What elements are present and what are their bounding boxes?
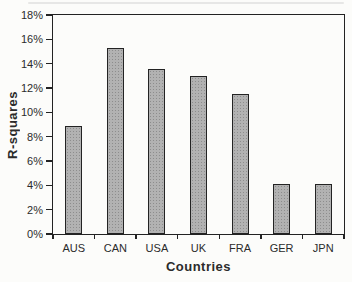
x-category-label: USA [136,242,178,255]
x-tick [52,234,54,239]
y-tick [46,160,52,162]
y-tick-label: 14% [3,58,43,70]
y-tick [46,136,52,138]
y-tick [46,39,52,41]
bar-chart-figure: R-squares 0%2%4%6%8%10%12%14%16%18%AUSCA… [0,0,352,282]
bar-USA [148,69,165,234]
x-category-label: UK [178,242,220,255]
x-axis-title: Countries [52,259,345,274]
y-tick-label: 4% [3,179,43,191]
x-category-label: JPN [302,242,344,255]
x-category-label: FRA [219,242,261,255]
x-tick [135,234,137,239]
x-category-label: CAN [95,242,137,255]
y-tick [46,233,52,235]
y-tick [46,63,52,65]
x-category-label: GER [261,242,303,255]
plot-area: 0%2%4%6%8%10%12%14%16%18%AUSCANUSAUKFRAG… [52,14,345,235]
y-axis-title: R-squares [5,14,22,235]
x-tick [302,234,304,239]
y-tick-label: 16% [3,33,43,45]
x-tick [343,234,345,239]
bar-AUS [65,126,82,234]
y-tick-label: 6% [3,155,43,167]
x-tick [177,234,179,239]
bar-GER [273,184,290,234]
y-tick-label: 12% [3,82,43,94]
y-tick-label: 0% [3,228,43,240]
y-tick-label: 8% [3,131,43,143]
y-tick [46,209,52,211]
bar-FRA [232,94,249,234]
x-tick [260,234,262,239]
y-tick [46,14,52,16]
y-tick-label: 18% [3,9,43,21]
y-tick-label: 2% [3,204,43,216]
x-tick [219,234,221,239]
bar-JPN [315,184,332,234]
y-tick [46,185,52,187]
bar-CAN [107,48,124,234]
y-tick-label: 10% [3,106,43,118]
bar-UK [190,76,207,234]
y-tick [46,87,52,89]
x-category-label: AUS [53,242,95,255]
x-tick [94,234,96,239]
y-tick [46,112,52,114]
